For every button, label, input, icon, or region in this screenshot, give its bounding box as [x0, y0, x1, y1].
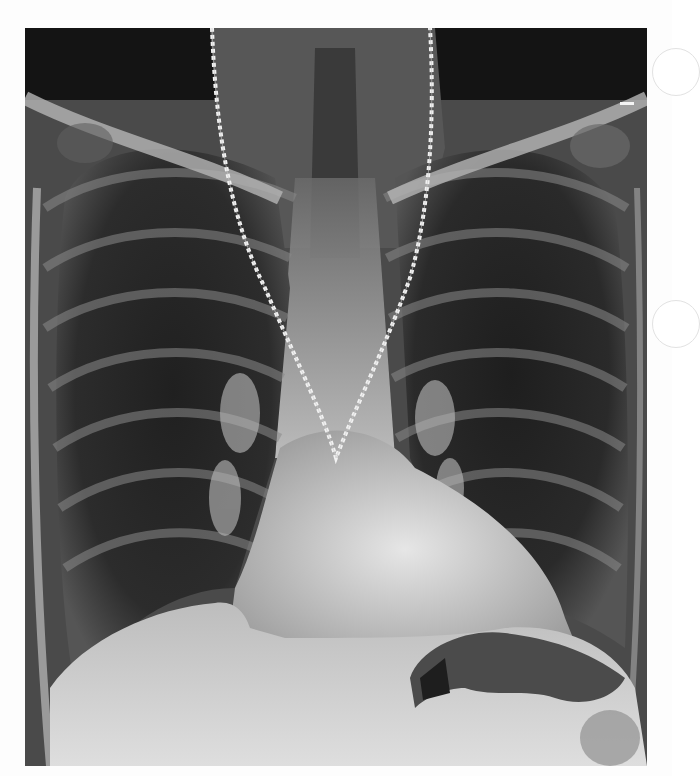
xray-image: [25, 28, 647, 766]
xray-film: [25, 28, 647, 766]
punch-hole: [652, 300, 700, 348]
punch-hole: [652, 48, 700, 96]
